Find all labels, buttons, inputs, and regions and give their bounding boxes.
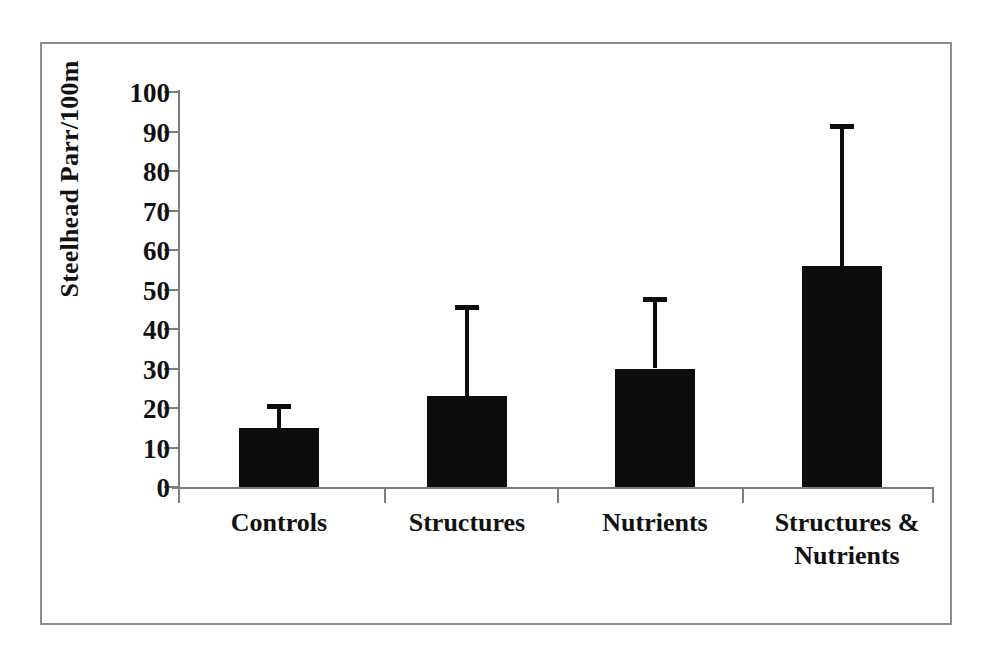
error-bar-cap xyxy=(267,404,291,409)
y-axis-line xyxy=(178,90,180,489)
bar xyxy=(427,396,507,487)
x-axis-category-label-line: Structures xyxy=(362,506,572,539)
x-axis-tick xyxy=(384,489,386,503)
y-axis-tick-label: 50 xyxy=(100,277,170,304)
error-bar-stem xyxy=(840,124,844,266)
x-axis-tick xyxy=(557,489,559,503)
y-axis-tick-label: 100 xyxy=(100,80,170,107)
y-axis-tick-label: 60 xyxy=(100,238,170,265)
x-axis-category-label-line: Nutrients xyxy=(555,506,755,539)
x-axis-line xyxy=(172,487,934,489)
y-axis-tick-label: 0 xyxy=(100,475,170,502)
x-axis-category-label-line: Controls xyxy=(179,506,379,539)
error-bar-stem xyxy=(465,305,469,396)
y-axis-tick-label: 90 xyxy=(100,119,170,146)
y-axis-title: Steelhead Parr/100m xyxy=(55,9,85,349)
x-axis-category-label: Nutrients xyxy=(555,506,755,539)
x-axis-tick xyxy=(742,489,744,503)
error-bar-cap xyxy=(455,305,479,310)
y-axis-tick-label: 80 xyxy=(100,159,170,186)
y-axis-tick-label: 10 xyxy=(100,435,170,462)
y-axis-tick-label: 20 xyxy=(100,396,170,423)
x-axis-tick xyxy=(178,489,180,503)
y-axis-tick-label: 40 xyxy=(100,317,170,344)
x-axis-category-label-line: Nutrients xyxy=(732,539,962,572)
x-axis-category-label: Structures &Nutrients xyxy=(732,506,962,573)
bar xyxy=(239,428,319,487)
y-axis-tick-label: 30 xyxy=(100,356,170,383)
plot-area: Steelhead Parr/100m 01020304050607080901… xyxy=(42,44,950,623)
x-axis-tick xyxy=(932,489,934,503)
error-bar-cap xyxy=(643,297,667,302)
figure-frame: Steelhead Parr/100m 01020304050607080901… xyxy=(40,42,952,625)
y-axis-tick-label: 70 xyxy=(100,198,170,225)
bar xyxy=(615,369,695,488)
bar xyxy=(802,266,882,487)
x-axis-category-label: Structures xyxy=(362,506,572,539)
error-bar-stem xyxy=(653,297,657,368)
x-axis-category-label-line: Structures & xyxy=(732,506,962,539)
x-axis-category-label: Controls xyxy=(179,506,379,539)
error-bar-cap xyxy=(830,124,854,129)
